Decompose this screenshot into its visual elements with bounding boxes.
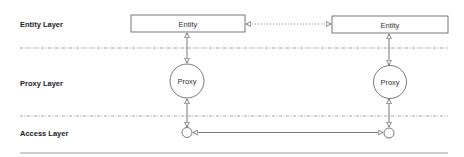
layer-label-access: Access Layer — [20, 129, 68, 138]
access-node-left[interactable] — [182, 128, 192, 138]
proxy-node-right-label: Proxy — [380, 78, 399, 87]
access-node-right[interactable] — [384, 128, 394, 138]
layer-label-entity: Entity Layer — [20, 20, 63, 29]
entity-node-right[interactable]: Entity — [332, 16, 448, 33]
proxy-node-left[interactable]: Proxy — [170, 64, 204, 98]
layer-label-proxy: Proxy Layer — [20, 79, 63, 88]
proxy-node-right[interactable]: Proxy — [374, 66, 407, 99]
layered-architecture-diagram: Entity Layer Proxy Layer Access Layer En… — [0, 0, 464, 157]
entity-node-right-label: Entity — [381, 21, 400, 30]
entity-node-left[interactable]: Entity — [131, 15, 245, 32]
proxy-node-left-label: Proxy — [177, 77, 196, 86]
entity-node-left-label: Entity — [179, 20, 198, 29]
